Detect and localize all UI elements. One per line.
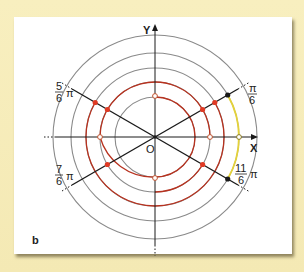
label-pi-over-6: π 6 — [248, 82, 257, 106]
dot-5pi6-r2 — [105, 107, 110, 112]
dot-7pi6-r2 — [105, 162, 110, 167]
black-dot-11pi6 — [225, 176, 230, 181]
dot-11pi6-r2 — [200, 162, 205, 167]
svg-text:6: 6 — [56, 92, 62, 104]
dot-pi6-r2 — [200, 107, 205, 112]
svg-text:7: 7 — [56, 163, 62, 175]
svg-text:π: π — [249, 82, 257, 94]
y-axis-arrow-icon — [152, 24, 158, 31]
svg-text:6: 6 — [238, 174, 244, 186]
svg-text:5: 5 — [56, 80, 62, 92]
svg-text:π: π — [66, 170, 74, 182]
label-5-6-pi: 5 6 π — [55, 80, 74, 104]
origin-dot — [153, 135, 157, 139]
dot-5pi6-r3 — [93, 100, 98, 105]
panel-label: b — [32, 234, 39, 246]
axes — [44, 28, 252, 256]
figure-background: Y X O π 6 5 6 π 7 6 π 11 6 π — [0, 0, 304, 272]
red-arc-r2-c — [203, 110, 210, 138]
open-dot-yellow — [237, 135, 242, 140]
origin-label: O — [146, 143, 155, 155]
svg-text:6: 6 — [249, 94, 255, 106]
x-axis-label: X — [250, 142, 258, 154]
dot-pi6-r3 — [212, 100, 217, 105]
svg-text:π: π — [250, 168, 258, 180]
svg-text:6: 6 — [56, 175, 62, 187]
polar-diagram: Y X O π 6 5 6 π 7 6 π 11 6 π — [0, 0, 304, 272]
y-axis-label: Y — [143, 24, 151, 36]
svg-text:11: 11 — [235, 162, 246, 174]
svg-text:π: π — [66, 87, 74, 99]
black-dot-pi6 — [225, 92, 230, 97]
